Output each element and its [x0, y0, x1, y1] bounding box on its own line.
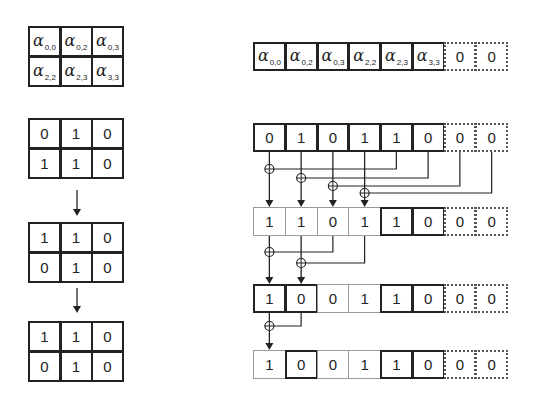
xor-down-arrow-head [329, 200, 337, 207]
feedback-connector [369, 152, 492, 193]
cell-value: 1 [72, 328, 80, 345]
cell-value: 0 [487, 213, 495, 230]
coefficient-symbol: α0,3 [321, 46, 344, 67]
state-row-1-cell: 1 [348, 123, 381, 152]
cell-value: 1 [360, 129, 368, 146]
coefficient-matrix-cell: α0,3 [91, 26, 124, 57]
state-row-1-cell: 0 [475, 123, 508, 152]
state-row-3-cell: 1 [348, 284, 381, 313]
cell-value: 0 [329, 290, 337, 307]
state-row-2-cell: 1 [348, 207, 381, 236]
cell-value: 0 [329, 356, 337, 373]
matrix-3-cell: 1 [60, 321, 93, 352]
coefficient-symbol: α2,3 [385, 46, 408, 67]
coefficient-subscript: 2,2 [365, 58, 376, 67]
coefficient-subscript: 0,2 [301, 58, 312, 67]
cell-value: 0 [40, 259, 48, 276]
cell-value: 1 [392, 356, 400, 373]
coefficient-subscript: 0,0 [270, 58, 281, 67]
coefficient-row-cell: α0,0 [253, 42, 286, 71]
cell-value: 0 [456, 129, 464, 146]
state-row-3-cell: 1 [380, 284, 413, 313]
cell-value: 0 [487, 48, 495, 65]
coefficient-symbol: α2,2 [353, 46, 376, 67]
state-row-2-cell: 1 [380, 207, 413, 236]
matrix-3-cell: 0 [91, 351, 124, 382]
state-row-1-cell: 0 [253, 123, 286, 152]
coefficient-symbol: α0,0 [258, 46, 281, 67]
coefficient-subscript: 2,3 [397, 58, 408, 67]
cell-value: 1 [265, 356, 273, 373]
cell-value: 1 [40, 328, 48, 345]
coefficient-symbol: α0,3 [96, 31, 119, 52]
coefficient-symbol: α2,3 [65, 61, 88, 82]
matrix-3-cell: 0 [91, 321, 124, 352]
coefficient-row-cell: α0,2 [285, 42, 318, 71]
cell-value: 1 [40, 155, 48, 172]
state-row-3-cell: 0 [412, 284, 445, 313]
coefficient-subscript: 0,3 [108, 43, 119, 52]
state-row-3-cell: 1 [253, 284, 286, 313]
matrix-1-cell: 1 [28, 148, 61, 179]
state-row-2-cell: 0 [317, 207, 350, 236]
cell-value: 0 [424, 290, 432, 307]
feedback-connector [306, 236, 365, 263]
cell-value: 1 [392, 213, 400, 230]
coefficient-row-cell: 0 [475, 42, 508, 71]
state-row-4-cell: 1 [348, 350, 381, 379]
coefficient-subscript: 3,3 [428, 58, 439, 67]
coefficient-symbol: α0,2 [65, 31, 88, 52]
matrix-1-cell: 0 [91, 148, 124, 179]
coefficient-matrix-cell: α2,2 [28, 56, 61, 87]
feedback-connector [306, 152, 429, 178]
state-row-3-cell: 0 [317, 284, 350, 313]
coefficient-subscript: 0,0 [45, 43, 56, 52]
cell-value: 0 [103, 358, 111, 375]
matrix-2-cell: 0 [28, 252, 61, 283]
matrix-1-cell: 0 [28, 118, 61, 149]
cell-value: 0 [329, 213, 337, 230]
state-row-1-cell: 1 [285, 123, 318, 152]
coefficient-row-cell: α3,3 [412, 42, 445, 71]
cell-value: 1 [72, 125, 80, 142]
state-row-3-cell: 0 [285, 284, 318, 313]
cell-value: 0 [487, 290, 495, 307]
coefficient-subscript: 0,3 [333, 58, 344, 67]
cell-value: 0 [40, 358, 48, 375]
cell-value: 0 [424, 129, 432, 146]
xor-down-arrow-head [265, 343, 273, 350]
cell-value: 0 [103, 259, 111, 276]
cell-value: 1 [72, 229, 80, 246]
state-row-3-cell: 0 [444, 284, 477, 313]
state-row-1-cell: 0 [444, 123, 477, 152]
coefficient-subscript: 2,2 [45, 73, 56, 82]
cell-value: 0 [424, 213, 432, 230]
cell-value: 1 [392, 129, 400, 146]
cell-value: 0 [40, 125, 48, 142]
feedback-connector [274, 313, 301, 326]
cell-value: 0 [329, 129, 337, 146]
cell-value: 0 [487, 129, 495, 146]
cell-value: 1 [297, 213, 305, 230]
cell-value: 1 [360, 213, 368, 230]
cell-value: 1 [72, 155, 80, 172]
cell-value: 1 [265, 213, 273, 230]
cell-value: 1 [360, 290, 368, 307]
state-row-4-cell: 1 [380, 350, 413, 379]
matrix-2-cell: 0 [91, 222, 124, 253]
coefficient-matrix-cell: α0,2 [60, 26, 93, 57]
coefficient-subscript: 3,3 [108, 73, 119, 82]
matrix-1-cell: 1 [60, 148, 93, 179]
cell-value: 0 [265, 129, 273, 146]
state-row-2-cell: 1 [253, 207, 286, 236]
coefficient-matrix-cell: α2,3 [60, 56, 93, 87]
state-row-3-cell: 0 [475, 284, 508, 313]
matrix-1-cell: 1 [60, 118, 93, 149]
cell-value: 0 [297, 356, 305, 373]
coefficient-symbol: α3,3 [96, 61, 119, 82]
state-row-1-cell: 0 [317, 123, 350, 152]
cell-value: 1 [72, 358, 80, 375]
state-row-4-cell: 0 [444, 350, 477, 379]
state-row-4-cell: 0 [285, 350, 318, 379]
matrix-2-cell: 1 [60, 222, 93, 253]
